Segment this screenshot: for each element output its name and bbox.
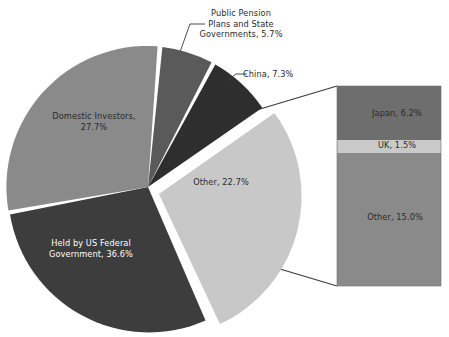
pie-label-federal-line2: Government, 36.6%: [49, 249, 133, 259]
bar-label-other: Other, 15.0%: [352, 212, 438, 223]
pie-label-domestic-investors-line2: 27.7%: [81, 122, 108, 132]
pie-label-domestic-investors: Domestic Investors,27.7%: [38, 111, 150, 132]
pie-label-domestic-investors-line1: Domestic Investors,: [52, 111, 135, 121]
pie-label-public-pension-line1: Public Pension: [211, 8, 271, 18]
bar-label-uk-text: UK, 1.5%: [378, 140, 416, 150]
bar-label-uk: UK, 1.5%: [356, 140, 438, 151]
pie-label-china: China, 7.3%: [243, 69, 335, 80]
pie-label-public-pension: Public PensionPlans and StateGovernments…: [182, 8, 300, 40]
bar-label-other-text: Other, 15.0%: [367, 212, 423, 222]
pie-label-federal-line1: Held by US Federal: [51, 238, 131, 248]
pie-label-china-text: China, 7.3%: [243, 69, 294, 79]
pie-chart-figure: [0, 0, 449, 337]
pie-label-other: Other, 22.7%: [178, 177, 264, 188]
pie-label-public-pension-line2: Plans and State: [208, 19, 273, 29]
bar-label-japan: Japan, 6.2%: [356, 108, 438, 119]
pie-label-other-text: Other, 22.7%: [193, 177, 249, 187]
bar-label-japan-text: Japan, 6.2%: [372, 108, 422, 118]
pie-label-public-pension-line3: Governments, 5.7%: [199, 29, 282, 39]
pie-label-held-by-us-federal-government: Held by US FederalGovernment, 36.6%: [28, 238, 154, 259]
